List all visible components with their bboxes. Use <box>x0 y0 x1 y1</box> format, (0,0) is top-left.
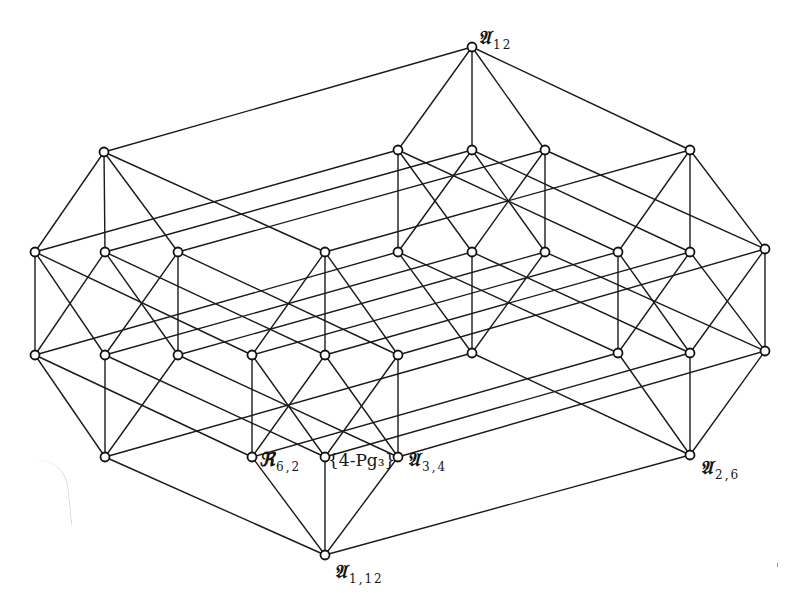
cube-edge <box>104 152 105 252</box>
label-subscript: 12 <box>493 38 512 52</box>
label-subscript: 1,12 <box>349 572 384 586</box>
lattice-node-r-c2 <box>686 248 695 257</box>
label-a3-4: 𝔄3,4 <box>407 450 447 473</box>
label-subscript: 2,6 <box>715 468 740 482</box>
cube-edge <box>104 152 178 252</box>
label-r6-2: ℜ6,2 <box>259 450 301 473</box>
link-edge <box>178 252 545 355</box>
lattice-edges <box>35 47 765 555</box>
link-edge <box>35 355 252 457</box>
label-symbol: 𝔄 <box>700 456 713 478</box>
lattice-node-mb-t <box>321 248 330 257</box>
link-edge <box>178 150 545 252</box>
link-edge <box>178 355 398 457</box>
lattice-node-l-c2 <box>101 248 110 257</box>
cube-edge <box>618 150 690 252</box>
label-top-a12: 𝔄12 <box>478 28 512 51</box>
cube-edge <box>690 150 765 249</box>
label-subscript: 3,4 <box>422 460 447 474</box>
link-edge <box>325 252 690 355</box>
cube-edge <box>35 355 105 457</box>
label-symbol: ℜ <box>259 448 274 470</box>
lattice-nodes <box>31 43 770 560</box>
link-edge <box>104 47 472 152</box>
lattice-node-l-a3 <box>174 351 183 360</box>
lattice-node-r-b <box>686 451 695 460</box>
lattice-node-mt-a3 <box>541 248 550 257</box>
lattice-node-mt-b <box>468 349 477 358</box>
cube-edge <box>690 351 765 455</box>
cube-edge <box>105 355 178 457</box>
link-edge <box>105 252 472 355</box>
lattice-node-mb-b <box>321 551 330 560</box>
link-edge <box>105 150 472 252</box>
label-symbol: 𝔄 <box>334 560 347 582</box>
link-edge <box>325 455 690 555</box>
lattice-node-mt-a2 <box>468 248 477 257</box>
link-edge <box>105 353 472 457</box>
link-edge <box>472 353 690 455</box>
lattice-diagram <box>0 0 791 593</box>
link-edge <box>398 150 618 252</box>
lattice-node-r-t <box>686 146 695 155</box>
scan-dot <box>777 563 778 567</box>
label-a2-6: 𝔄2,6 <box>700 458 740 481</box>
lattice-node-mb-c3 <box>394 351 403 360</box>
link-edge <box>472 47 690 150</box>
label-symbol: 𝔄 <box>407 448 420 470</box>
lattice-node-mt-t <box>468 43 477 52</box>
lattice-node-r-a3 <box>761 347 770 356</box>
label-bottom-a1-12: 𝔄1,12 <box>334 562 384 585</box>
link-edge <box>35 252 398 355</box>
link-edge <box>35 150 398 252</box>
cube-edge <box>325 457 398 555</box>
cube-edge <box>398 252 472 353</box>
lattice-node-mt-c2 <box>468 146 477 155</box>
lattice-node-l-a1 <box>31 351 40 360</box>
link-edge <box>35 252 252 355</box>
cube-edge <box>35 152 104 252</box>
lattice-node-mb-a1 <box>248 453 257 462</box>
lattice-node-mb-c2 <box>321 351 330 360</box>
lattice-node-r-c1 <box>614 248 623 257</box>
lattice-node-mt-c1 <box>394 146 403 155</box>
lattice-node-l-c3 <box>174 248 183 257</box>
label-text: {4-Pg₃} <box>328 450 395 470</box>
link-edge <box>398 252 618 353</box>
cube-edge <box>618 353 690 455</box>
cube-edge <box>472 47 545 150</box>
lattice-node-r-a2 <box>686 349 695 358</box>
link-edge <box>252 252 618 355</box>
label-symbol: 𝔄 <box>478 26 491 48</box>
lattice-node-l-a2 <box>101 351 110 360</box>
lattice-node-mt-a1 <box>394 248 403 257</box>
label-subscript: 6,2 <box>276 460 301 474</box>
link-edge <box>252 353 618 457</box>
label-4-pg3: {4-Pg₃} <box>328 452 395 469</box>
lattice-node-r-c3 <box>761 245 770 254</box>
lattice-node-l-c1 <box>31 248 40 257</box>
lattice-node-mt-c3 <box>541 146 550 155</box>
lattice-node-l-b <box>101 453 110 462</box>
lattice-node-l-t <box>100 148 109 157</box>
cube-edge <box>398 47 472 150</box>
link-edge <box>325 353 690 457</box>
lattice-node-r-a1 <box>614 349 623 358</box>
lattice-node-mb-c1 <box>248 351 257 360</box>
link-edge <box>105 355 325 457</box>
